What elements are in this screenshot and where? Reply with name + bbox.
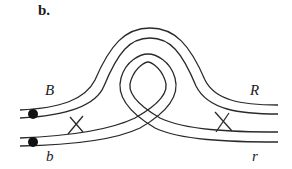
panel-label: b. [38, 2, 50, 19]
diagram-canvas [0, 0, 292, 169]
right-crossover [215, 112, 232, 132]
outer-arch-strand [20, 28, 278, 118]
label-r: r [252, 148, 258, 165]
label-R: R [250, 82, 259, 99]
left-crossover [68, 116, 83, 134]
left-lower-dot [28, 137, 38, 147]
label-B: B [45, 82, 54, 99]
diagram-figure: b. B b R r [0, 0, 292, 169]
inner-loop-strand [20, 54, 278, 146]
label-b: b [46, 148, 54, 165]
left-upper-dot [28, 109, 38, 119]
